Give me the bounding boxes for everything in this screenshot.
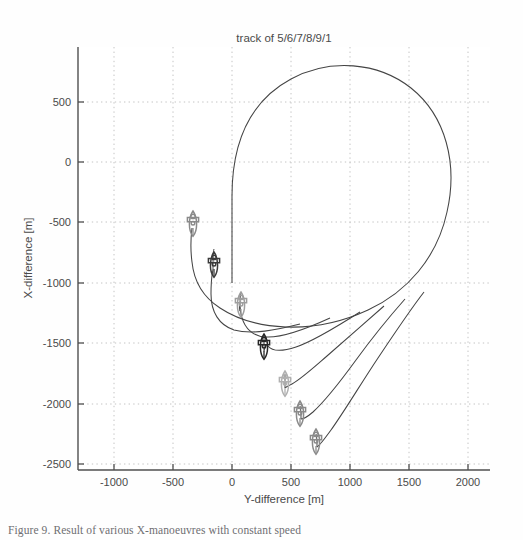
x-tick-label: 1500 <box>397 476 421 488</box>
y-tick-label: -2000 <box>43 398 71 410</box>
y-tick-label: -1000 <box>43 277 71 289</box>
x-tick-label: 500 <box>282 476 300 488</box>
x-tick-label: 1000 <box>338 476 362 488</box>
chart-title: track of 5/6/7/8/9/1 <box>236 32 331 44</box>
y-tick-label: -2500 <box>43 458 71 470</box>
y-tick-label: 500 <box>53 96 71 108</box>
y-tick-labels: 500 0 -500 -1000 -1500 -2000 -2500 <box>43 96 71 470</box>
y-tick-label: 0 <box>65 156 71 168</box>
figure-caption: Figure 9. Result of various X-manoeuvres… <box>8 524 518 540</box>
y-tick-label: -1500 <box>43 337 71 349</box>
x-tick-label: -1000 <box>100 476 128 488</box>
y-tick-label: -500 <box>49 216 71 228</box>
y-axis-title: X-difference [m] <box>22 218 34 299</box>
x-tick-label: -500 <box>162 476 184 488</box>
figure-container: track of 5/6/7/8/9/1 500 0 -500 -1000 -1… <box>0 0 523 540</box>
track-plot: track of 5/6/7/8/9/1 500 0 -500 -1000 -1… <box>0 0 523 540</box>
x-tick-labels: -1000 -500 0 500 1000 1500 2000 <box>100 476 480 488</box>
x-axis-title: Y-difference [m] <box>244 493 324 505</box>
x-tick-label: 0 <box>229 476 235 488</box>
x-tick-label: 2000 <box>456 476 480 488</box>
